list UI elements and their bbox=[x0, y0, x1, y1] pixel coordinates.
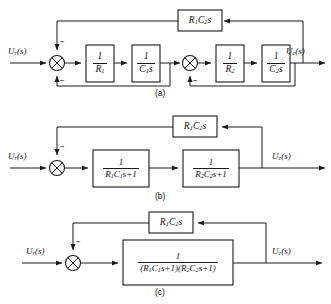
diagram-a-block-inv-r2: 1 R2 bbox=[216, 45, 244, 82]
diagram-b-block-lag-1: 1 R1C1s+1 bbox=[93, 150, 149, 187]
diagram-a-sum1-sign-top: − bbox=[60, 38, 65, 46]
diagram-c-feedback-block: R1C2s bbox=[149, 212, 193, 233]
diagram-a-sum2-sign-bottom: − bbox=[193, 77, 198, 85]
diagram-b-output-label: Uc(s) bbox=[272, 152, 291, 161]
diagram-a-block-inv-c2s: 1 C2s bbox=[262, 45, 290, 82]
diagram-b-block-lag-2: 1 R2C2s+1 bbox=[183, 150, 239, 187]
diagram-c-forward-block: 1 (R1C1s+1)(R2C2s+1) bbox=[123, 240, 233, 285]
diagram-c-output-label: Uc(s) bbox=[272, 247, 291, 256]
figure-canvas: Ur(s) Uc(s) − − − 1 R1 1 C1s 1 R2 1 C2s … bbox=[0, 0, 331, 304]
caption-b: (b) bbox=[155, 192, 165, 201]
diagram-a-input-label: Ur(s) bbox=[8, 47, 26, 56]
diagram-b-sum1-sign-top: − bbox=[60, 143, 65, 151]
diagram-a-sum1-sign-bottom: − bbox=[60, 77, 65, 85]
diagram-b-input-label: Ur(s) bbox=[8, 152, 26, 161]
diagram-a-block-inv-c1s: 1 C1s bbox=[132, 45, 160, 82]
diagram-c-input-label: Ur(s) bbox=[26, 247, 44, 256]
diagram-c-sum1-sign-top: − bbox=[76, 238, 81, 246]
caption-c: (c) bbox=[155, 288, 165, 297]
diagram-a-block-inv-r1: 1 R1 bbox=[86, 45, 114, 82]
diagram-a-feedback-block: R1C2s bbox=[178, 10, 222, 31]
diagram-b-feedback-block: R1C2s bbox=[173, 116, 217, 137]
caption-a: (a) bbox=[155, 89, 165, 98]
